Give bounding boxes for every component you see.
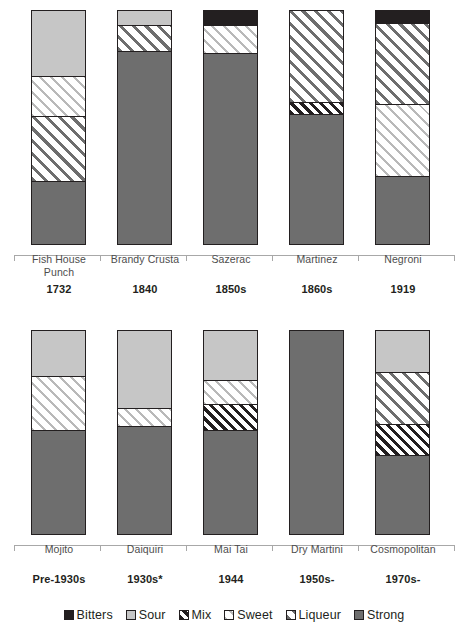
axis-tick: [358, 255, 359, 261]
category-year: Pre-1930s: [16, 573, 102, 585]
chart-legend: BittersSourMixSweetLiqueurStrong: [0, 608, 468, 622]
bar-mojito[interactable]: [31, 330, 86, 535]
legend-item-bitters[interactable]: Bitters: [64, 608, 113, 622]
plot-area-row-1: [0, 10, 468, 245]
category-label: Cosmopolitan: [360, 543, 446, 556]
bar-segment-bitters[interactable]: [376, 11, 429, 23]
legend-swatch-strong-icon: [354, 610, 364, 620]
bar-segment-sweet[interactable]: [204, 380, 257, 404]
category-labels-row-2: MojitoPre-1930sDaiquiri1930s*Mai Tai1944…: [0, 535, 468, 595]
legend-label: Bitters: [77, 608, 113, 622]
category-label: Mojito: [16, 543, 102, 556]
legend-swatch-mix-icon: [179, 610, 189, 620]
bar-stack: [31, 330, 86, 535]
bar-segment-sour[interactable]: [32, 331, 85, 376]
bar-brandy-crusta[interactable]: [117, 10, 172, 245]
axis-tick: [14, 255, 15, 261]
category-label: Brandy Crusta: [102, 253, 188, 266]
bar-segment-liqueur[interactable]: [290, 11, 343, 102]
legend-label: Mix: [192, 608, 212, 622]
bar-daiquiri[interactable]: [117, 330, 172, 535]
bar-segment-strong[interactable]: [32, 181, 85, 244]
bar-stack: [31, 10, 86, 245]
bar-stack: [203, 10, 258, 245]
legend-swatch-sweet-icon: [224, 610, 234, 620]
legend-item-strong[interactable]: Strong: [354, 608, 404, 622]
axis-tick: [272, 545, 273, 551]
category-label: Dry Martini: [274, 543, 360, 556]
bar-stack: [289, 10, 344, 245]
bar-segment-sweet[interactable]: [118, 408, 171, 426]
category-year: 1732: [16, 283, 102, 295]
bar-segment-sweet[interactable]: [376, 104, 429, 176]
axis-tick: [454, 545, 455, 551]
bar-segment-liqueur[interactable]: [376, 372, 429, 425]
bar-segment-strong[interactable]: [204, 430, 257, 534]
bar-martinez[interactable]: [289, 10, 344, 245]
stacked-bar-chart: Fish House Punch1732Brandy Crusta1840Saz…: [0, 0, 468, 638]
bar-stack: [117, 330, 172, 535]
axis-tick: [272, 255, 273, 261]
bar-segment-mix[interactable]: [376, 424, 429, 454]
legend-label: Sour: [139, 608, 166, 622]
bar-segment-mix[interactable]: [204, 404, 257, 430]
axis-tick: [100, 255, 101, 261]
bar-sazerac[interactable]: [203, 10, 258, 245]
bar-segment-strong[interactable]: [290, 331, 343, 534]
bar-stack: [375, 330, 430, 535]
bar-segment-liqueur[interactable]: [118, 25, 171, 51]
category-year: 1950s-: [274, 573, 360, 585]
category-year: 1840: [102, 283, 188, 295]
category-year: 1919: [360, 283, 446, 295]
category-label: Fish House Punch: [16, 253, 102, 278]
axis-tick: [358, 545, 359, 551]
bar-segment-strong[interactable]: [376, 176, 429, 244]
category-year: 1850s: [188, 283, 274, 295]
bar-mai-tai[interactable]: [203, 330, 258, 535]
legend-label: Strong: [367, 608, 404, 622]
bar-segment-strong[interactable]: [118, 426, 171, 534]
legend-label: Liqueur: [299, 608, 341, 622]
bar-segment-sweet[interactable]: [32, 376, 85, 431]
bar-segment-sweet[interactable]: [204, 25, 257, 53]
bar-segment-sour[interactable]: [204, 331, 257, 380]
bar-stack: [203, 330, 258, 535]
axis-tick: [100, 545, 101, 551]
category-year: 1970s-: [360, 573, 446, 585]
legend-swatch-bitters-icon: [64, 610, 74, 620]
bar-segment-mix[interactable]: [290, 102, 343, 114]
category-label: Daiquiri: [102, 543, 188, 556]
bar-negroni[interactable]: [375, 10, 430, 245]
bar-segment-strong[interactable]: [32, 430, 85, 534]
bar-segment-sweet[interactable]: [32, 76, 85, 116]
category-label: Martinez: [274, 253, 360, 266]
legend-item-mix[interactable]: Mix: [179, 608, 212, 622]
bar-segment-liqueur[interactable]: [32, 116, 85, 181]
legend-swatch-liqueur-icon: [286, 610, 296, 620]
bar-segment-sour[interactable]: [118, 11, 171, 25]
category-label: Sazerac: [188, 253, 274, 266]
bar-segment-sour[interactable]: [118, 331, 171, 408]
bar-segment-sour[interactable]: [376, 331, 429, 372]
bar-segment-sour[interactable]: [32, 11, 85, 76]
legend-swatch-sour-icon: [126, 610, 136, 620]
bar-fish-house-punch[interactable]: [31, 10, 86, 245]
bar-segment-strong[interactable]: [204, 53, 257, 244]
category-labels-row-1: Fish House Punch1732Brandy Crusta1840Saz…: [0, 245, 468, 305]
bar-cosmopolitan[interactable]: [375, 330, 430, 535]
legend-item-sour[interactable]: Sour: [126, 608, 166, 622]
legend-item-sweet[interactable]: Sweet: [224, 608, 272, 622]
bar-segment-bitters[interactable]: [204, 11, 257, 25]
bar-segment-strong[interactable]: [118, 51, 171, 244]
legend-item-liqueur[interactable]: Liqueur: [286, 608, 341, 622]
bar-stack: [289, 330, 344, 535]
category-year: 1944: [188, 573, 274, 585]
chart-panel-row-2: MojitoPre-1930sDaiquiri1930s*Mai Tai1944…: [0, 330, 468, 595]
axis-tick: [186, 255, 187, 261]
bar-segment-strong[interactable]: [376, 455, 429, 534]
axis-tick: [454, 255, 455, 261]
bar-dry-martini[interactable]: [289, 330, 344, 535]
category-label: Mai Tai: [188, 543, 274, 556]
bar-segment-strong[interactable]: [290, 114, 343, 244]
bar-segment-liqueur[interactable]: [376, 23, 429, 105]
